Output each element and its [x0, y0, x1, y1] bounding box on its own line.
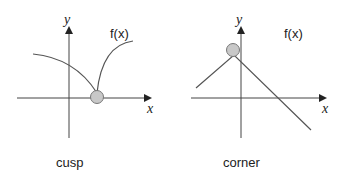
corner-graph: [191, 28, 325, 138]
corner-caption: corner: [223, 155, 260, 170]
cusp-caption: cusp: [56, 155, 83, 170]
corner-point-marker: [227, 44, 240, 57]
curve-right: [97, 41, 133, 93]
y-axis-label: y: [64, 12, 70, 28]
corner-line: [196, 55, 311, 130]
y-axis-label: y: [236, 12, 242, 28]
cusp-graph: [17, 28, 150, 138]
cusp-point-marker: [91, 91, 104, 104]
function-label: f(x): [284, 26, 303, 41]
curve-left: [33, 54, 97, 93]
x-axis-label: x: [322, 101, 328, 117]
x-axis-label: x: [147, 101, 153, 117]
function-label: f(x): [110, 26, 129, 41]
